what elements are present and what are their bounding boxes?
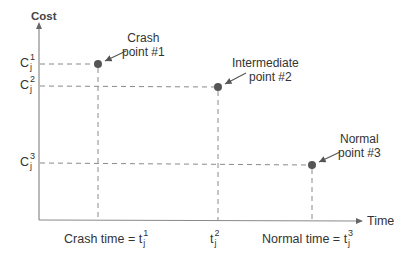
x-axis-arrow-icon	[356, 218, 363, 224]
x-tick-normal-time: Normal time = t3j	[262, 233, 347, 246]
y-axis-arrow-icon	[36, 22, 42, 29]
y-tick-c1: C1j	[20, 57, 29, 70]
guide-c3-horizontal	[40, 163, 309, 165]
intermediate-point-dot	[214, 83, 222, 91]
crash-point-dot	[94, 60, 102, 68]
intermediate-point-line2: point #2	[232, 70, 299, 84]
normal-point-dot	[308, 161, 316, 169]
x-tick-crash-time: Crash time = t1j	[64, 233, 142, 246]
y-tick-c3: C3j	[20, 156, 29, 169]
x-axis	[39, 220, 357, 221]
intermediate-point-annotation: Intermediate point #2	[232, 56, 299, 84]
normal-callout-arrow-icon	[319, 152, 340, 162]
y-tick-c2: C2j	[20, 79, 29, 92]
intermediate-point-line1: Intermediate	[232, 56, 299, 70]
normal-point-line2: point #3	[338, 146, 381, 160]
guide-c2-horizontal	[40, 86, 215, 87]
normal-point-line1: Normal	[338, 132, 381, 146]
normal-point-annotation: Normal point #3	[338, 132, 381, 160]
x-axis-label: Time	[367, 215, 394, 228]
y-axis-label: Cost	[31, 11, 57, 23]
crash-point-line2: point #1	[122, 45, 165, 59]
x-tick-t2: t2j	[210, 233, 213, 246]
crash-point-line1: Crash	[122, 31, 165, 45]
crash-point-annotation: Crash point #1	[122, 31, 165, 59]
diagram-canvas	[0, 0, 412, 260]
